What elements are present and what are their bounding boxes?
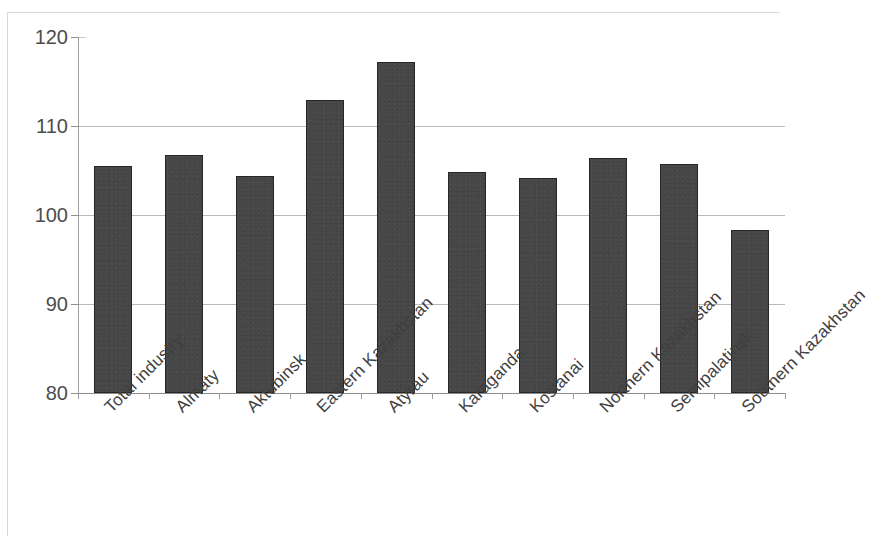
x-axis-tick-labels: Total industryAlmatyAktubinskEastern Kaz… (0, 393, 790, 543)
y-tick-label: 90 (0, 293, 68, 316)
gridline (78, 126, 785, 127)
bar (236, 176, 274, 393)
y-tick-label: 100 (0, 204, 68, 227)
y-axis-line (78, 37, 79, 394)
bar (589, 158, 627, 393)
bar (94, 166, 132, 393)
y-tick-label: 110 (0, 115, 68, 138)
y-tick-label: 120 (0, 26, 68, 49)
bar (731, 230, 769, 393)
gridline (78, 37, 86, 38)
bar (448, 172, 486, 393)
bar (306, 100, 344, 393)
